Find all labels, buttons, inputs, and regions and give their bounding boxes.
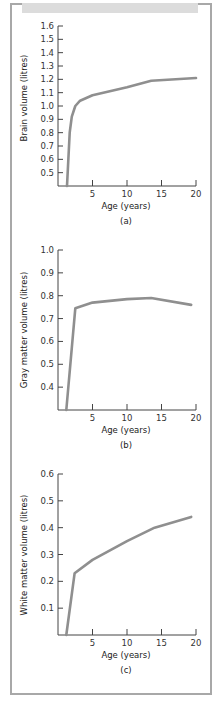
- y-tick-label: 0.9: [40, 114, 54, 124]
- x-tick-label: 15: [156, 189, 167, 199]
- panel-caption: (b): [120, 440, 132, 450]
- y-tick-label: 0.8: [40, 291, 54, 301]
- y-tick-label: 0.5: [40, 496, 54, 506]
- panel-caption: (c): [120, 665, 131, 675]
- x-tick-label: 20: [191, 638, 202, 648]
- y-tick-label: 0.9: [40, 268, 54, 278]
- y-tick-label: 0.4: [40, 523, 54, 533]
- y-tick-label: 0.7: [40, 141, 54, 151]
- y-tick-label: 0.5: [40, 168, 54, 178]
- y-tick-label: 0.8: [40, 128, 54, 138]
- y-axis-title: White matter volume (litres): [19, 495, 29, 616]
- y-tick-label: 1.0: [40, 101, 54, 111]
- charts-canvas: 0.50.60.70.80.91.01.11.21.31.41.51.65101…: [0, 0, 221, 705]
- y-tick-label: 0.6: [40, 469, 54, 479]
- x-tick-label: 20: [191, 413, 202, 423]
- y-axis-title: Gray matter volume (litres): [19, 272, 29, 388]
- y-tick-label: 1.3: [40, 61, 54, 71]
- x-tick-label: 15: [156, 413, 167, 423]
- x-tick-label: 10: [122, 189, 133, 199]
- y-tick-label: 0.3: [40, 550, 54, 560]
- panel-caption: (a): [120, 216, 132, 226]
- chart-panel-a: 0.50.60.70.80.91.01.11.21.31.41.51.65101…: [19, 21, 201, 226]
- x-tick-label: 10: [122, 413, 133, 423]
- x-axis-title: Age (years): [101, 201, 150, 211]
- y-tick-label: 1.5: [40, 34, 54, 44]
- axes: [58, 474, 196, 635]
- axes: [58, 250, 196, 410]
- y-tick-label: 1.0: [40, 245, 54, 255]
- x-axis-title: Age (years): [101, 425, 150, 435]
- axes: [58, 26, 196, 186]
- chart-panel-c: 0.10.20.30.40.50.65101520White matter vo…: [19, 469, 201, 675]
- x-tick-label: 15: [156, 638, 167, 648]
- data-line: [66, 517, 191, 635]
- y-tick-label: 0.6: [40, 154, 54, 164]
- y-tick-label: 0.4: [40, 382, 54, 392]
- data-line: [66, 298, 191, 410]
- chart-panel-b: 0.40.50.60.70.80.91.05101520Gray matter …: [19, 245, 201, 450]
- y-tick-label: 0.5: [40, 359, 54, 369]
- y-tick-label: 1.6: [40, 21, 54, 31]
- y-axis-title: Brain volume (litres): [19, 55, 29, 142]
- x-tick-label: 20: [191, 189, 202, 199]
- y-tick-label: 1.4: [40, 48, 54, 58]
- y-tick-label: 1.1: [40, 88, 54, 98]
- y-tick-label: 0.7: [40, 314, 54, 324]
- y-tick-label: 0.2: [40, 576, 54, 586]
- y-tick-label: 0.6: [40, 336, 54, 346]
- x-tick-label: 5: [90, 189, 95, 199]
- y-tick-label: 1.2: [40, 74, 54, 84]
- y-tick-label: 0.1: [40, 603, 54, 613]
- x-axis-title: Age (years): [101, 650, 150, 660]
- x-tick-label: 10: [122, 638, 133, 648]
- x-tick-label: 5: [90, 638, 95, 648]
- x-tick-label: 5: [90, 413, 95, 423]
- data-line: [67, 78, 196, 186]
